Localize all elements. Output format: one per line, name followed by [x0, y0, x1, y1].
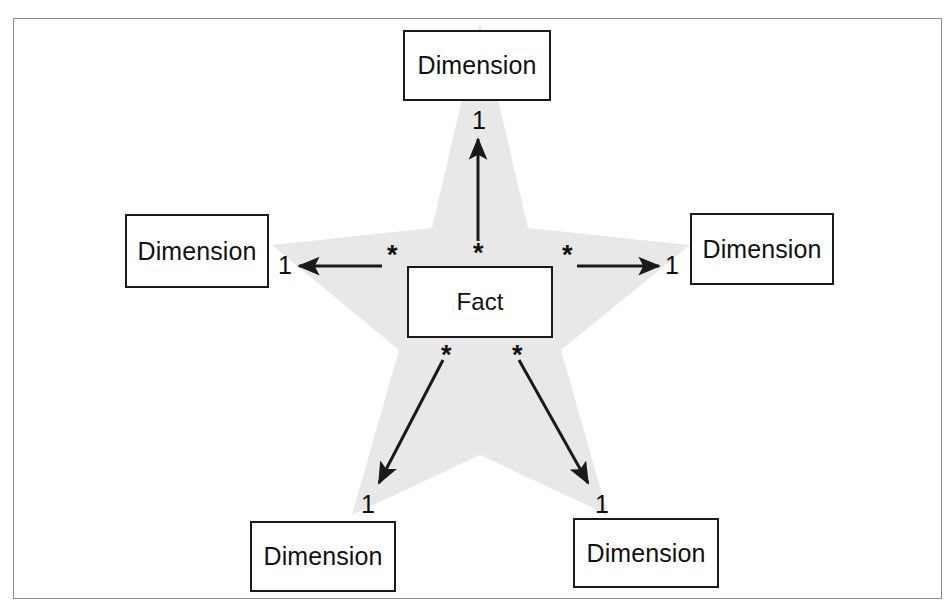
cardinality-one-bottom-left: 1: [361, 492, 375, 517]
cardinality-many-bottom-right: *: [512, 342, 523, 369]
dimension-box-right[interactable]: Dimension: [690, 213, 834, 285]
cardinality-one-bottom-right: 1: [595, 492, 609, 517]
dimension-box-left[interactable]: Dimension: [125, 214, 269, 288]
cardinality-many-bottom-left: *: [441, 342, 452, 369]
cardinality-one-right: 1: [665, 253, 679, 278]
cardinality-one-left: 1: [278, 253, 292, 278]
cardinality-one-top: 1: [472, 108, 486, 133]
cardinality-many-top: *: [473, 240, 484, 267]
dimension-box-top[interactable]: Dimension: [403, 30, 551, 101]
star-schema-figure: * 1 * 1 * 1 * 1 * 1 Dimension Dimension …: [0, 0, 949, 615]
cardinality-many-right: *: [562, 242, 573, 269]
fact-box[interactable]: Fact: [407, 266, 553, 338]
dimension-box-bottom-left[interactable]: Dimension: [250, 521, 396, 592]
cardinality-many-left: *: [387, 242, 398, 269]
dimension-box-bottom-right[interactable]: Dimension: [573, 518, 719, 588]
